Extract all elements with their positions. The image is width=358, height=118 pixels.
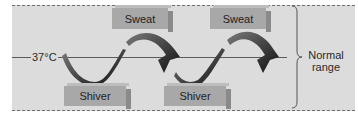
shiver-label-2: Shiver <box>179 90 210 102</box>
sweat-label-2: Sweat <box>223 13 254 25</box>
sweat-label-1: Sweat <box>125 13 156 25</box>
shiver-label-1: Shiver <box>79 90 110 102</box>
range-label-line1: Normal <box>304 49 348 61</box>
normal-range-label: Normal range <box>304 49 348 73</box>
range-label-line2: range <box>304 61 348 73</box>
